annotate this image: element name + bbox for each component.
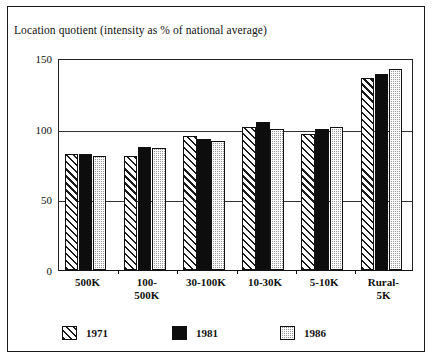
y-tick-100: 100 <box>6 124 52 136</box>
bar-30-100k-1981[interactable] <box>197 139 211 270</box>
bar-group-30-100k <box>177 60 236 270</box>
bar-500k-1981[interactable] <box>79 154 93 270</box>
chart-title: Location quotient (intensity as % of nat… <box>14 24 267 36</box>
bar-group-rural-5k <box>355 60 414 270</box>
x-label-500k: 500K <box>58 276 117 289</box>
bar-500k-1986[interactable] <box>93 156 107 270</box>
bar-30-100k-1986[interactable] <box>211 141 225 270</box>
x-label-line: 100- <box>117 276 176 289</box>
bar-rural-5k-1986[interactable] <box>389 69 403 270</box>
y-axis-tick-labels: 050100150 <box>6 59 52 271</box>
legend-label-1986: 1986 <box>304 327 326 339</box>
x-label-line: 500K <box>58 276 117 289</box>
x-tick-2 <box>237 270 238 274</box>
x-label-line: 500K <box>117 289 176 302</box>
bar-group-100-500k <box>118 60 177 270</box>
x-label-line: 30-100K <box>176 276 235 289</box>
x-tick-0 <box>118 270 119 274</box>
bar-100-500k-1971[interactable] <box>124 156 138 270</box>
x-axis-tick-labels: 500K100-500K30-100K10-30K5-10KRural-5K <box>58 276 413 316</box>
legend-swatch-1986 <box>280 326 295 340</box>
bar-5-10k-1986[interactable] <box>330 127 344 270</box>
bar-100-500k-1981[interactable] <box>138 147 152 270</box>
x-label-rural-5k: Rural-5K <box>354 276 413 302</box>
x-label-10-30k: 10-30K <box>236 276 295 289</box>
legend-label-1971: 1971 <box>86 327 108 339</box>
chart-legend: 197119811986 <box>62 325 362 345</box>
bar-30-100k-1971[interactable] <box>183 136 197 270</box>
x-label-30-100k: 30-100K <box>176 276 235 289</box>
bar-rural-5k-1981[interactable] <box>375 74 389 270</box>
x-label-line: 5K <box>354 289 413 302</box>
bar-100-500k-1986[interactable] <box>152 148 166 270</box>
x-label-line: 5-10K <box>295 276 354 289</box>
legend-swatch-1981 <box>172 326 187 340</box>
bar-10-30k-1971[interactable] <box>242 127 256 270</box>
x-label-5-10k: 5-10K <box>295 276 354 289</box>
plot-area <box>58 59 413 271</box>
x-tick-1 <box>177 270 178 274</box>
chart-figure: Location quotient (intensity as % of nat… <box>0 0 434 361</box>
bar-10-30k-1981[interactable] <box>256 122 270 270</box>
x-tick-4 <box>355 270 356 274</box>
bar-5-10k-1981[interactable] <box>315 129 329 270</box>
legend-entry-1971[interactable]: 1971 <box>62 325 108 341</box>
bar-500k-1971[interactable] <box>65 154 79 270</box>
y-tick-150: 150 <box>6 53 52 65</box>
bar-group-10-30k <box>237 60 296 270</box>
y-tick-0: 0 <box>6 265 52 277</box>
x-label-line: Rural- <box>354 276 413 289</box>
bar-group-5-10k <box>296 60 355 270</box>
bar-5-10k-1971[interactable] <box>301 134 315 270</box>
bar-10-30k-1986[interactable] <box>270 129 284 270</box>
x-label-line: 10-30K <box>236 276 295 289</box>
x-label-100-500k: 100-500K <box>117 276 176 302</box>
legend-entry-1986[interactable]: 1986 <box>280 325 326 341</box>
x-tick-3 <box>296 270 297 274</box>
legend-swatch-1971 <box>62 326 77 340</box>
legend-label-1981: 1981 <box>196 327 218 339</box>
bar-group-500k <box>59 60 118 270</box>
bar-rural-5k-1971[interactable] <box>361 78 375 270</box>
legend-entry-1981[interactable]: 1981 <box>172 325 218 341</box>
y-tick-50: 50 <box>6 194 52 206</box>
